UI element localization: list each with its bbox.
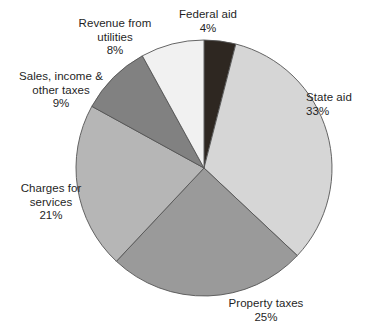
pie-label-charges-for-services-line1: Charges for: [2, 182, 100, 196]
pie-label-state-aid-percent: 33%: [306, 105, 372, 119]
pie-label-federal-aid: Federal aid 4%: [160, 8, 256, 35]
pie-label-revenue-from-utilities: Revenue from utilities 8%: [62, 17, 168, 58]
pie-label-state-aid: State aid 33%: [306, 91, 372, 118]
pie-label-sales-income-other-taxes-line2: other taxes: [4, 84, 118, 98]
pie-chart-figure: Federal aid 4% Revenue from utilities 8%…: [0, 0, 372, 333]
pie-label-property-taxes-percent: 25%: [210, 311, 322, 325]
pie-label-revenue-from-utilities-percent: 8%: [62, 44, 168, 58]
pie-label-charges-for-services: Charges for services 21%: [2, 182, 100, 223]
pie-label-revenue-from-utilities-line2: utilities: [62, 31, 168, 45]
pie-label-sales-income-other-taxes-line1: Sales, income &: [4, 70, 118, 84]
pie-label-charges-for-services-percent: 21%: [2, 209, 100, 223]
pie-label-property-taxes-name: Property taxes: [210, 297, 322, 311]
pie-label-property-taxes: Property taxes 25%: [210, 297, 322, 324]
pie-label-sales-income-other-taxes-percent: 9%: [4, 97, 118, 111]
pie-label-charges-for-services-line2: services: [2, 196, 100, 210]
pie-label-federal-aid-percent: 4%: [160, 22, 256, 36]
pie-label-state-aid-name: State aid: [306, 91, 372, 105]
pie-label-federal-aid-name: Federal aid: [160, 8, 256, 22]
pie-chart-svg: [0, 0, 372, 333]
pie-label-sales-income-other-taxes: Sales, income & other taxes 9%: [4, 70, 118, 111]
pie-label-revenue-from-utilities-line1: Revenue from: [62, 17, 168, 31]
